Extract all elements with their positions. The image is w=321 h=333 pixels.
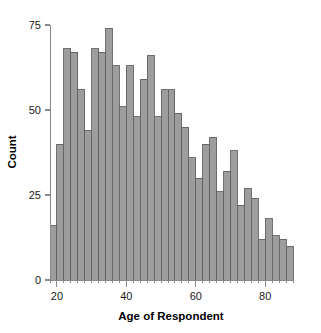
histogram-bar bbox=[279, 239, 286, 280]
histogram-bar bbox=[147, 56, 154, 280]
histogram-bar bbox=[175, 113, 182, 280]
histogram-bar bbox=[182, 127, 189, 280]
histogram-bar bbox=[224, 171, 231, 280]
histogram-bar bbox=[203, 144, 210, 280]
histogram-bar bbox=[112, 66, 119, 280]
histogram-figure: 0255075 20406080 Age of Respondent Count bbox=[0, 0, 321, 333]
y-axis-tick-label: 25 bbox=[29, 189, 41, 201]
histogram-bar bbox=[210, 137, 217, 280]
histogram-bar bbox=[154, 117, 161, 280]
histogram-bar bbox=[196, 178, 203, 280]
x-axis-tick-label: 20 bbox=[51, 290, 63, 302]
y-axis-title: Count bbox=[6, 135, 18, 168]
histogram-bar bbox=[99, 52, 106, 280]
histogram-bar bbox=[244, 188, 251, 280]
histogram-bar bbox=[286, 246, 293, 280]
x-axis-title: Age of Respondent bbox=[118, 310, 224, 322]
histogram-bar bbox=[78, 90, 85, 280]
histogram-bar bbox=[85, 130, 92, 280]
histogram-bar bbox=[119, 107, 126, 280]
histogram-bar bbox=[231, 151, 238, 280]
histogram-bar bbox=[140, 79, 147, 280]
x-axis-tick-label: 40 bbox=[120, 290, 132, 302]
histogram-bar bbox=[237, 205, 244, 280]
y-axis-tick-label: 75 bbox=[29, 19, 41, 31]
histogram-bar bbox=[251, 198, 258, 280]
histogram-plot: 0255075 20406080 Age of Respondent Count bbox=[0, 0, 321, 333]
histogram-bar bbox=[57, 144, 64, 280]
histogram-bar bbox=[71, 52, 78, 280]
histogram-bar bbox=[126, 66, 133, 280]
histogram-bar bbox=[64, 49, 71, 280]
histogram-bar bbox=[92, 49, 99, 280]
x-axis-tick-label: 80 bbox=[259, 290, 271, 302]
histogram-bar bbox=[217, 192, 224, 280]
y-axis-tick-label: 0 bbox=[35, 274, 41, 286]
y-axis-tick-label: 50 bbox=[29, 104, 41, 116]
histogram-bar bbox=[161, 90, 168, 280]
histogram-bar bbox=[106, 28, 113, 280]
histogram-bar bbox=[189, 158, 196, 280]
histogram-bar bbox=[258, 239, 265, 280]
histogram-bar bbox=[168, 90, 175, 280]
histogram-bar bbox=[265, 219, 272, 280]
x-axis-tick-label: 60 bbox=[190, 290, 202, 302]
histogram-bar bbox=[272, 236, 279, 280]
histogram-bar bbox=[133, 117, 140, 280]
